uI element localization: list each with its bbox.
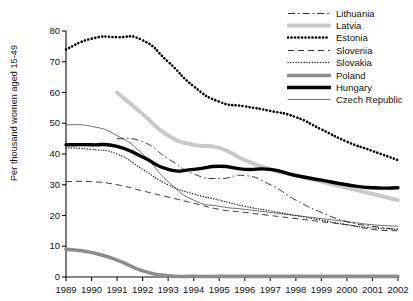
y-tick-label: 20: [36, 210, 60, 221]
y-tick-label: 10: [36, 240, 60, 251]
legend-swatch-icon: [287, 45, 331, 56]
legend-swatch-icon: [287, 82, 331, 93]
series-line-czech-republic: [66, 125, 398, 227]
legend-swatch-icon: [287, 8, 331, 19]
legend-swatch-icon: [287, 57, 331, 68]
legend-item-estonia[interactable]: Estonia: [287, 32, 406, 44]
series-line-hungary: [66, 144, 398, 188]
legend-swatch-icon: [287, 20, 331, 31]
chart-legend: LithuaniaLatviaEstoniaSloveniaSlovakiaPo…: [287, 7, 406, 106]
legend-label: Estonia: [331, 32, 368, 43]
y-tick-label: 0: [36, 271, 60, 282]
legend-item-latvia[interactable]: Latvia: [287, 19, 406, 31]
y-tick-label: 80: [36, 25, 60, 36]
legend-item-slovenia[interactable]: Slovenia: [287, 44, 406, 56]
legend-label: Poland: [331, 70, 366, 81]
y-tick-label: 40: [36, 148, 60, 159]
legend-item-hungary[interactable]: Hungary: [287, 81, 406, 93]
y-tick-label: 50: [36, 117, 60, 128]
y-tick-label: 30: [36, 179, 60, 190]
legend-item-lithuania[interactable]: Lithuania: [287, 7, 406, 19]
legend-label: Hungary: [331, 82, 372, 93]
y-tick-label: 60: [36, 87, 60, 98]
legend-item-poland[interactable]: Poland: [287, 69, 406, 81]
legend-label: Latvia: [331, 20, 361, 31]
legend-label: Slovakia: [331, 57, 372, 68]
legend-swatch-icon: [287, 32, 331, 43]
legend-label: Czech Republic: [331, 94, 403, 105]
legend-item-czech-republic[interactable]: Czech Republic: [287, 94, 406, 106]
series-line-lithuania: [117, 138, 398, 229]
x-tick-label: 2002: [383, 284, 413, 295]
legend-swatch-icon: [287, 70, 331, 81]
series-line-poland: [66, 249, 398, 276]
legend-label: Slovenia: [331, 45, 372, 56]
y-tick-label: 70: [36, 56, 60, 67]
legend-item-slovakia[interactable]: Slovakia: [287, 57, 406, 69]
legend-swatch-icon: [287, 94, 331, 105]
legend-label: Lithuania: [331, 8, 375, 19]
